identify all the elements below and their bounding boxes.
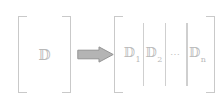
source-matrix: 𝔻	[18, 16, 71, 93]
partition-block-label-n: 𝔻n	[189, 46, 205, 63]
source-close-bracket	[62, 16, 71, 93]
partition-close-bracket	[206, 16, 215, 93]
block-subscript-2: 2	[157, 55, 162, 64]
block-base-2: 𝔻	[145, 45, 156, 60]
partition-block: ⋯	[165, 16, 187, 93]
partition-block: 𝔻n	[186, 16, 208, 93]
block-subscript-1: 1	[135, 55, 140, 64]
partition-block-label-1: 𝔻1	[124, 46, 140, 63]
partition-block-label-2: 𝔻2	[145, 46, 161, 63]
partition-block: 𝔻2	[143, 16, 165, 93]
matrix-partition-figure: 𝔻 𝔻1 𝔻2 ⋯ 𝔻n	[0, 0, 224, 104]
block-base-n: 𝔻	[189, 45, 200, 60]
partition-block: 𝔻1	[121, 16, 143, 93]
block-base-1: 𝔻	[124, 45, 135, 60]
partitioned-matrix: 𝔻1 𝔻2 ⋯ 𝔻n	[114, 16, 215, 93]
partition-ellipsis: ⋯	[170, 50, 181, 60]
partition-block-list: 𝔻1 𝔻2 ⋯ 𝔻n	[121, 16, 208, 93]
implies-arrow-icon	[77, 46, 114, 63]
